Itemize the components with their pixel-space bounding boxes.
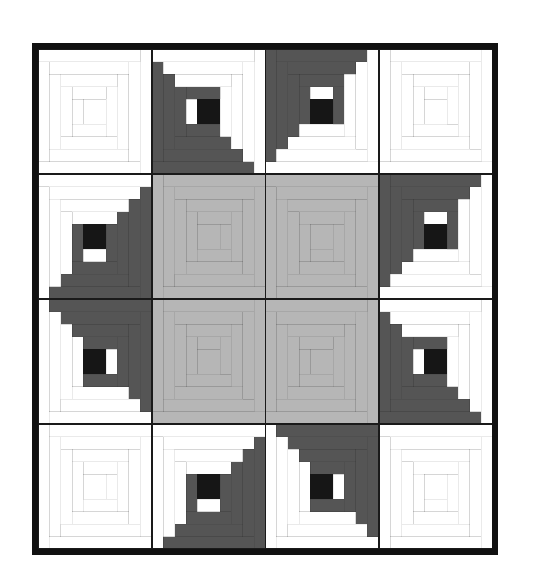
quilt-block-r1c3 <box>265 49 379 174</box>
quilt-block-r2c2 <box>152 174 266 299</box>
quilt-binding-frame <box>32 43 498 555</box>
quilt-block-r3c2 <box>152 299 266 424</box>
quilt-block-r3c3 <box>265 299 379 424</box>
quilt-block-r3c1 <box>38 299 152 424</box>
quilt-block-r4c2 <box>152 424 266 549</box>
quilt-block-r2c1 <box>38 174 152 299</box>
quilt-canvas <box>0 0 555 585</box>
quilt-block-r2c4 <box>379 174 493 299</box>
quilt-block-r4c3 <box>265 424 379 549</box>
quilt-block-r4c4 <box>379 424 493 549</box>
quilt-block-r3c4 <box>379 299 493 424</box>
quilt-block-r1c2 <box>152 49 266 174</box>
quilt-block-r1c1 <box>38 49 152 174</box>
quilt-block-r2c3 <box>265 174 379 299</box>
quilt-block-grid <box>38 49 492 549</box>
quilt-block-r1c4 <box>379 49 493 174</box>
quilt-block-r4c1 <box>38 424 152 549</box>
